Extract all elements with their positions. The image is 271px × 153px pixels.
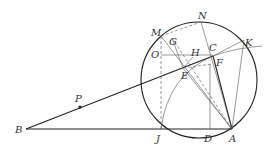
segment-EA xyxy=(183,68,232,129)
label-C: C xyxy=(209,42,217,53)
label-F: F xyxy=(215,57,224,68)
segment-KA xyxy=(232,40,244,129)
label-H: H xyxy=(190,47,200,58)
label-D: D xyxy=(203,133,212,144)
point-P xyxy=(78,105,81,108)
segment-HE xyxy=(183,57,193,68)
circle xyxy=(141,22,257,138)
label-O: O xyxy=(151,49,159,60)
segment-MN xyxy=(161,22,201,36)
label-A: A xyxy=(228,133,236,144)
label-E: E xyxy=(180,70,189,81)
label-J: J xyxy=(154,133,161,144)
segment-NA xyxy=(201,22,232,129)
label-G: G xyxy=(169,36,177,47)
label-B: B xyxy=(14,124,22,135)
segment-CK xyxy=(213,40,244,56)
label-M: M xyxy=(150,27,162,38)
label-N: N xyxy=(197,10,208,21)
geometry-diagram: B P A J D N M K O C F H G E xyxy=(0,0,271,153)
segment-GA xyxy=(172,38,232,129)
label-P: P xyxy=(74,93,82,104)
label-K: K xyxy=(244,37,253,48)
